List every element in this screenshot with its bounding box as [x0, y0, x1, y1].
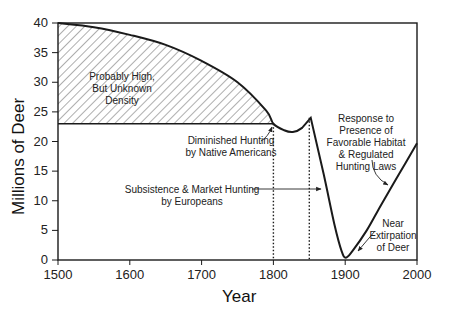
annotation-native-americans: Diminished Hunting by Native Americans — [185, 135, 276, 159]
y-axis-title: Millions of Deer — [9, 98, 29, 215]
y-tick-label: 30 — [18, 74, 48, 89]
x-tick-label: 1700 — [182, 267, 222, 282]
annotation-unknown-density: Probably High, But Unknown Density — [89, 71, 155, 107]
y-tick-label: 5 — [18, 222, 48, 237]
x-axis-title: Year — [222, 287, 256, 307]
annotation-extirpation: Near Extirpation of Deer — [369, 218, 416, 254]
annotation-recovery: Response to Presence of Favorable Habita… — [327, 113, 406, 173]
x-tick-label: 1800 — [253, 267, 293, 282]
x-tick-label: 2000 — [397, 267, 437, 282]
x-tick-label: 1900 — [325, 267, 365, 282]
y-tick-label: 40 — [18, 15, 48, 30]
annotation-europeans: Subsistence & Market Hunting by European… — [125, 184, 260, 208]
y-tick-label: 0 — [18, 252, 48, 267]
x-tick-label: 1500 — [38, 267, 78, 282]
y-tick-label: 35 — [18, 45, 48, 60]
x-tick-label: 1600 — [110, 267, 150, 282]
